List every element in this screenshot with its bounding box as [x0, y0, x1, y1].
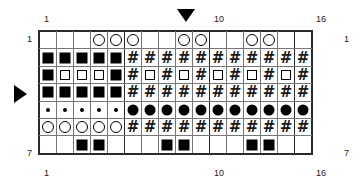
pattern-cell[interactable]	[91, 118, 108, 135]
pattern-cell[interactable]: #	[125, 84, 142, 101]
pattern-cell[interactable]: #	[159, 66, 176, 83]
pattern-cell[interactable]	[227, 136, 244, 153]
pattern-cell[interactable]	[40, 136, 57, 153]
pattern-cell[interactable]	[40, 32, 57, 49]
pattern-cell[interactable]: #	[193, 118, 210, 135]
pattern-cell[interactable]	[91, 49, 108, 66]
pattern-cell[interactable]	[91, 101, 108, 118]
pattern-cell[interactable]: #	[295, 84, 312, 101]
pattern-cell[interactable]: #	[142, 49, 159, 66]
pattern-cell[interactable]: #	[227, 66, 244, 83]
pattern-cell[interactable]	[142, 32, 159, 49]
pattern-cell[interactable]	[193, 101, 210, 118]
pattern-cell[interactable]: #	[295, 49, 312, 66]
pattern-cell[interactable]: #	[227, 84, 244, 101]
pattern-cell[interactable]	[278, 136, 295, 153]
pattern-cell[interactable]	[108, 84, 125, 101]
pattern-cell[interactable]	[74, 32, 91, 49]
pattern-cell[interactable]: #	[295, 118, 312, 135]
pattern-cell[interactable]	[244, 66, 261, 83]
pattern-cell[interactable]	[125, 101, 142, 118]
pattern-cell[interactable]: #	[125, 118, 142, 135]
pattern-cell[interactable]	[40, 49, 57, 66]
pattern-cell[interactable]	[108, 136, 125, 153]
pattern-cell[interactable]: #	[227, 49, 244, 66]
pattern-cell[interactable]	[159, 32, 176, 49]
pattern-cell[interactable]	[210, 101, 227, 118]
pattern-cell[interactable]	[278, 66, 295, 83]
pattern-cell[interactable]: #	[278, 84, 295, 101]
pattern-cell[interactable]: #	[193, 66, 210, 83]
pattern-cell[interactable]	[74, 84, 91, 101]
pattern-cell[interactable]	[57, 101, 74, 118]
pattern-cell[interactable]: #	[278, 118, 295, 135]
pattern-cell[interactable]: #	[295, 66, 312, 83]
pattern-cell[interactable]	[40, 118, 57, 135]
pattern-cell[interactable]: #	[244, 84, 261, 101]
pattern-cell[interactable]	[108, 101, 125, 118]
pattern-cell[interactable]	[40, 84, 57, 101]
pattern-cell[interactable]: #	[244, 49, 261, 66]
pattern-cell[interactable]: #	[227, 118, 244, 135]
pattern-cell[interactable]	[108, 118, 125, 135]
pattern-cell[interactable]: #	[244, 118, 261, 135]
pattern-cell[interactable]	[108, 66, 125, 83]
pattern-cell[interactable]	[244, 32, 261, 49]
pattern-cell[interactable]	[74, 118, 91, 135]
pattern-cell[interactable]: #	[278, 49, 295, 66]
pattern-cell[interactable]	[142, 136, 159, 153]
pattern-cell[interactable]	[244, 136, 261, 153]
pattern-cell[interactable]: #	[261, 66, 278, 83]
pattern-cell[interactable]	[125, 136, 142, 153]
pattern-cell[interactable]	[142, 66, 159, 83]
pattern-cell[interactable]	[91, 66, 108, 83]
pattern-cell[interactable]	[74, 49, 91, 66]
pattern-cell[interactable]	[108, 32, 125, 49]
pattern-cell[interactable]	[227, 101, 244, 118]
pattern-cell[interactable]	[57, 84, 74, 101]
pattern-cell[interactable]: #	[125, 49, 142, 66]
pattern-cell[interactable]	[108, 49, 125, 66]
pattern-cell[interactable]: #	[176, 118, 193, 135]
pattern-cell[interactable]	[142, 101, 159, 118]
pattern-cell[interactable]	[227, 32, 244, 49]
pattern-cell[interactable]	[40, 101, 57, 118]
pattern-cell[interactable]: #	[261, 84, 278, 101]
pattern-cell[interactable]: #	[193, 49, 210, 66]
pattern-cell[interactable]	[210, 66, 227, 83]
pattern-cell[interactable]	[176, 136, 193, 153]
pattern-cell[interactable]	[278, 101, 295, 118]
pattern-cell[interactable]	[176, 32, 193, 49]
pattern-cell[interactable]: #	[159, 118, 176, 135]
pattern-cell[interactable]	[91, 32, 108, 49]
pattern-cell[interactable]	[295, 101, 312, 118]
pattern-cell[interactable]	[261, 101, 278, 118]
pattern-cell[interactable]: #	[210, 84, 227, 101]
pattern-cell[interactable]	[57, 66, 74, 83]
pattern-cell[interactable]	[193, 136, 210, 153]
pattern-cell[interactable]: #	[210, 118, 227, 135]
pattern-cell[interactable]	[295, 32, 312, 49]
pattern-cell[interactable]	[40, 66, 57, 83]
pattern-cell[interactable]	[193, 32, 210, 49]
pattern-cell[interactable]	[159, 101, 176, 118]
pattern-cell[interactable]	[57, 136, 74, 153]
pattern-cell[interactable]	[261, 136, 278, 153]
pattern-cell[interactable]	[57, 118, 74, 135]
pattern-cell[interactable]	[295, 136, 312, 153]
pattern-cell[interactable]	[210, 32, 227, 49]
pattern-cell[interactable]	[176, 101, 193, 118]
pattern-cell[interactable]: #	[210, 49, 227, 66]
pattern-cell[interactable]: #	[159, 84, 176, 101]
pattern-cell[interactable]: #	[261, 118, 278, 135]
pattern-cell[interactable]	[74, 136, 91, 153]
pattern-cell[interactable]	[74, 66, 91, 83]
pattern-cell[interactable]	[57, 32, 74, 49]
pattern-cell[interactable]	[91, 84, 108, 101]
pattern-cell[interactable]: #	[159, 49, 176, 66]
pattern-cell[interactable]	[278, 32, 295, 49]
pattern-cell[interactable]	[210, 136, 227, 153]
pattern-cell[interactable]: #	[176, 49, 193, 66]
pattern-cell[interactable]	[176, 66, 193, 83]
pattern-cell[interactable]	[159, 136, 176, 153]
